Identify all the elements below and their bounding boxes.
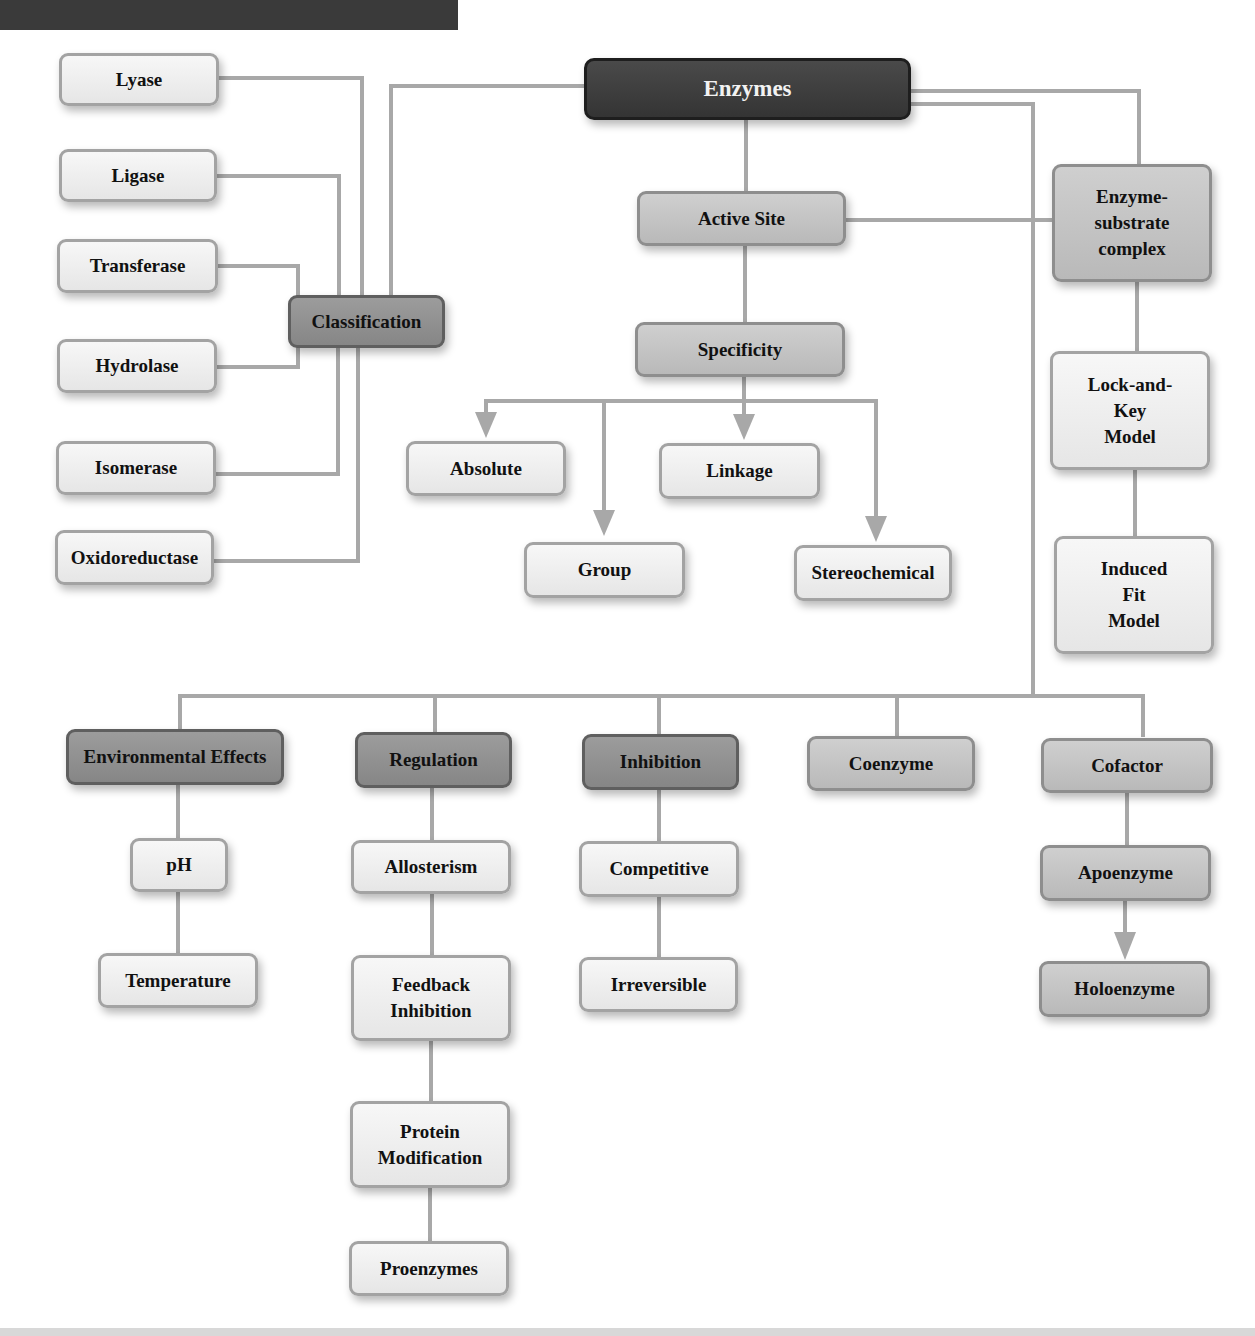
footer-bar — [0, 1328, 1255, 1336]
label-line: substrate — [1095, 210, 1170, 236]
node-active-site: Active Site — [637, 191, 846, 246]
node-absolute: Absolute — [406, 441, 566, 496]
node-induced-fit-model: Induced Fit Model — [1054, 536, 1214, 654]
label-line: Protein — [400, 1119, 460, 1145]
label-line: Feedback — [392, 972, 470, 998]
label-line: Fit — [1122, 582, 1145, 608]
node-irreversible: Irreversible — [579, 957, 738, 1012]
node-hydrolase: Hydrolase — [57, 339, 217, 393]
node-oxidoreductase: Oxidoreductase — [55, 530, 214, 585]
node-protein-modification: Protein Modification — [350, 1101, 510, 1188]
node-linkage: Linkage — [659, 443, 820, 499]
node-allosterism: Allosterism — [351, 840, 511, 894]
node-temperature: Temperature — [98, 953, 258, 1008]
node-feedback-inhibition: Feedback Inhibition — [351, 955, 511, 1041]
arrow-holoenzyme-icon — [1114, 932, 1136, 960]
node-apoenzyme: Apoenzyme — [1040, 845, 1211, 901]
node-ph: pH — [130, 838, 228, 892]
node-cofactor: Cofactor — [1041, 738, 1213, 793]
label-line: complex — [1098, 236, 1166, 262]
node-specificity: Specificity — [635, 322, 845, 377]
node-ligase: Ligase — [59, 149, 217, 202]
node-proenzymes: Proenzymes — [349, 1241, 509, 1296]
label-line: Modification — [378, 1145, 483, 1171]
label-line: Lock-and- — [1088, 372, 1172, 398]
label-line: Inhibition — [390, 998, 471, 1024]
node-regulation: Regulation — [355, 732, 512, 788]
node-stereochemical: Stereochemical — [794, 545, 952, 601]
label-line: Model — [1108, 608, 1160, 634]
label-line: Induced — [1101, 556, 1168, 582]
node-lock-and-key-model: Lock-and- Key Model — [1050, 351, 1210, 470]
node-isomerase: Isomerase — [56, 441, 216, 495]
node-group: Group — [524, 542, 685, 598]
node-environmental-effects: Environmental Effects — [66, 729, 284, 785]
node-holoenzyme: Holoenzyme — [1039, 961, 1210, 1017]
arrow-linkage-icon — [733, 414, 755, 440]
node-competitive: Competitive — [579, 841, 739, 897]
node-transferase: Transferase — [57, 239, 218, 293]
label-line: Model — [1104, 424, 1156, 450]
label-line: Enzyme- — [1096, 184, 1168, 210]
label-line: Key — [1114, 398, 1147, 424]
node-lyase: Lyase — [59, 53, 219, 106]
arrow-stereochemical-icon — [865, 516, 887, 542]
arrow-absolute-icon — [475, 412, 497, 438]
arrow-group-icon — [593, 510, 615, 536]
node-classification: Classification — [288, 295, 445, 348]
node-inhibition: Inhibition — [582, 734, 739, 790]
node-enzyme-substrate-complex: Enzyme- substrate complex — [1052, 164, 1212, 282]
node-coenzyme: Coenzyme — [807, 736, 975, 791]
node-enzymes: Enzymes — [584, 58, 911, 120]
